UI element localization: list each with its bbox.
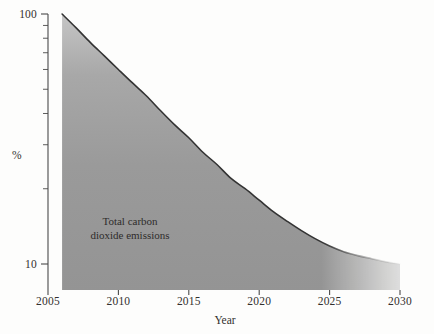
y-axis-title: % <box>12 149 22 161</box>
x-tick-label: 2025 <box>318 295 342 307</box>
y-tick-label: 10 <box>0 258 37 270</box>
annotation-line-1: Total carbon <box>90 214 169 228</box>
chart-container: % Year Total carbon dioxide emissions 20… <box>0 0 434 334</box>
y-tick-label: 100 <box>0 8 37 20</box>
chart-plot-area <box>0 0 434 334</box>
y-axis-ticks <box>41 14 48 264</box>
x-tick-label: 2005 <box>36 295 60 307</box>
annotation-line-2: dioxide emissions <box>90 228 169 242</box>
x-tick-label: 2015 <box>177 295 201 307</box>
y-axis <box>41 14 48 290</box>
x-tick-label: 2030 <box>388 295 412 307</box>
x-tick-label: 2010 <box>106 295 130 307</box>
x-axis <box>48 290 420 295</box>
series-annotation: Total carbon dioxide emissions <box>90 214 169 242</box>
emissions-area-fill <box>62 14 400 290</box>
area-series <box>62 14 400 290</box>
x-axis-ticks <box>48 290 400 295</box>
x-axis-title: Year <box>214 314 235 326</box>
x-tick-label: 2020 <box>247 295 271 307</box>
